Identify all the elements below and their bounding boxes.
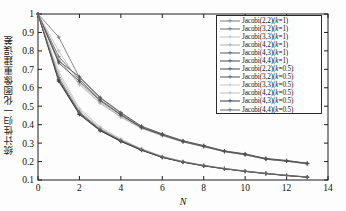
legend-item[interactable]: +Jacobi(3,3)(k=0.5): [219, 81, 319, 89]
plus-marker-icon: +: [227, 58, 233, 65]
legend-item[interactable]: +Jacobi(3,2)(k=0.5): [219, 73, 319, 81]
plus-marker-icon: +: [227, 34, 233, 41]
plus-marker-icon: +: [227, 90, 233, 97]
legend-item-label: Jacobi(4,3)(k=0.5): [241, 97, 293, 105]
legend-item-label: Jacobi(3,3)(k=0.5): [241, 81, 293, 89]
y-tick-label: 0.4: [22, 120, 34, 130]
y-tick-label: 0.1: [22, 175, 34, 185]
y-tick-label: 0.8: [22, 46, 34, 56]
legend-item[interactable]: +Jacobi(4,3)(k=0.5): [219, 97, 319, 105]
legend-item-label: Jacobi(4,4)(k=1): [241, 57, 288, 65]
plus-marker-icon: +: [227, 26, 233, 33]
legend-line-sample: +: [219, 106, 241, 114]
legend-item[interactable]: +Jacobi(2,2)(k=1): [219, 17, 319, 25]
legend-item-label: Jacobi(2,2)(k=0.5): [241, 65, 293, 73]
plus-marker-icon: +: [227, 66, 233, 73]
legend-item-label: Jacobi(4,3)(k=1): [241, 49, 288, 57]
legend-item[interactable]: +Jacobi(2,2)(k=0.5): [219, 65, 319, 73]
plus-marker-icon: +: [227, 106, 233, 113]
legend-item[interactable]: +Jacobi(3,3)(k=1): [219, 33, 319, 41]
plus-marker-icon: +: [227, 74, 233, 81]
y-tick-label: 0.5: [22, 102, 34, 112]
x-tick-label: 8: [201, 183, 206, 193]
plus-marker-icon: +: [227, 18, 233, 25]
legend-item[interactable]: +Jacobi(4,2)(k=0.5): [219, 89, 319, 97]
x-axis-title: N: [179, 196, 188, 207]
y-tick-label: 0.6: [22, 83, 34, 93]
x-tick-label: 2: [77, 183, 82, 193]
x-tick-label: 10: [240, 183, 250, 193]
y-tick-label: 0.9: [22, 28, 34, 38]
legend-item-label: Jacobi(4,4)(k=0.5): [241, 106, 293, 114]
x-tick-label: 0: [36, 183, 41, 193]
legend-item[interactable]: +Jacobi(4,4)(k=1): [219, 57, 319, 65]
x-tick-label: 6: [160, 183, 165, 193]
y-tick-label: 1: [29, 9, 34, 19]
legend-item-label: Jacobi(4,2)(k=0.5): [241, 89, 293, 97]
legend-item-label: Jacobi(2,2)(k=1): [241, 17, 288, 25]
legend-item[interactable]: +Jacobi(3,2)(k=1): [219, 25, 319, 33]
y-tick-label: 0.2: [22, 157, 34, 167]
legend-item-label: Jacobi(3,3)(k=1): [241, 33, 288, 41]
legend-item-label: Jacobi(3,2)(k=0.5): [241, 73, 293, 81]
legend-item[interactable]: +Jacobi(4,3)(k=1): [219, 49, 319, 57]
x-tick-label: 12: [282, 183, 292, 193]
x-tick-label: 4: [118, 183, 123, 193]
plus-marker-icon: +: [227, 42, 233, 49]
plus-marker-icon: +: [227, 50, 233, 57]
legend-item-label: Jacobi(4,2)(k=1): [241, 41, 288, 49]
legend-item[interactable]: +Jacobi(4,2)(k=1): [219, 41, 319, 49]
y-tick-label: 0.7: [22, 65, 34, 75]
x-tick-label: 14: [323, 183, 333, 193]
figure-container: 024681012140.10.20.30.40.50.60.70.80.91N…: [0, 0, 346, 211]
chart-legend[interactable]: +Jacobi(2,2)(k=1)+Jacobi(3,2)(k=1)+Jacob…: [216, 15, 322, 114]
legend-item[interactable]: +Jacobi(4,4)(k=0.5): [219, 106, 319, 114]
plus-marker-icon: +: [227, 82, 233, 89]
plus-marker-icon: +: [227, 98, 233, 105]
y-tick-label: 0.3: [22, 139, 34, 149]
legend-item-label: Jacobi(3,2)(k=1): [241, 25, 288, 33]
